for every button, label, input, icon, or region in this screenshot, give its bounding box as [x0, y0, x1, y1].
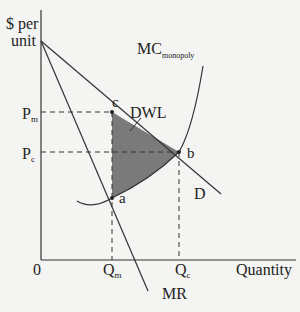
point-c-label: c	[112, 94, 119, 110]
qc-label: Qc	[175, 261, 191, 280]
pm-label: Pm	[22, 105, 38, 124]
pc-label: Pc	[22, 145, 35, 164]
point-a-marker	[110, 196, 114, 200]
dwl-area	[112, 112, 179, 198]
y-axis-label-line2: unit	[11, 32, 36, 49]
y-axis-label-line1: $ per	[6, 15, 39, 33]
demand-label: D	[194, 185, 206, 202]
monopoly-dwl-diagram: $ per unit Pm Pc 0 Qm Qc Quantity MCmono…	[0, 0, 300, 312]
point-b-marker	[177, 150, 181, 154]
point-c-marker	[110, 110, 114, 114]
origin-label: 0	[33, 261, 41, 278]
point-b-label: b	[187, 145, 195, 161]
point-a-label: a	[119, 190, 126, 206]
dwl-label: DWL	[130, 104, 166, 121]
mr-label: MR	[162, 285, 187, 302]
mc-label: MCmonopoly	[137, 40, 194, 60]
x-axis-label: Quantity	[236, 261, 292, 279]
qm-label: Qm	[103, 261, 122, 280]
